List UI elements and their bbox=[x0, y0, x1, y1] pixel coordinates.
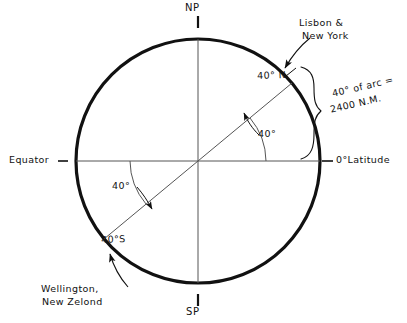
diagram-canvas: NP SP Equator 0°Latitude 40° N 40°S 40° … bbox=[0, 0, 407, 323]
lat-40-north-label: 40° N bbox=[257, 69, 286, 82]
angle-label-lower-left: 40° bbox=[112, 180, 130, 192]
north-pole-label: NP bbox=[185, 2, 200, 14]
lisbon-new-york-pointer bbox=[285, 38, 310, 68]
zero-latitude-label: 0°Latitude bbox=[336, 154, 390, 166]
south-pole-label: SP bbox=[186, 306, 200, 318]
lat-40-south-label: 40°S bbox=[101, 233, 126, 246]
angle-label-upper-right: 40° bbox=[258, 128, 276, 140]
city-north-line1: Lisbon & bbox=[299, 17, 343, 30]
equator-label: Equator bbox=[9, 154, 49, 166]
city-south-line1: Wellington, bbox=[41, 283, 99, 296]
city-south-line2: New Zelond bbox=[42, 296, 103, 309]
lat-40n-tick bbox=[286, 68, 296, 76]
angle-arc-lower-left bbox=[130, 161, 146, 204]
city-north-line2: New York bbox=[302, 30, 349, 43]
